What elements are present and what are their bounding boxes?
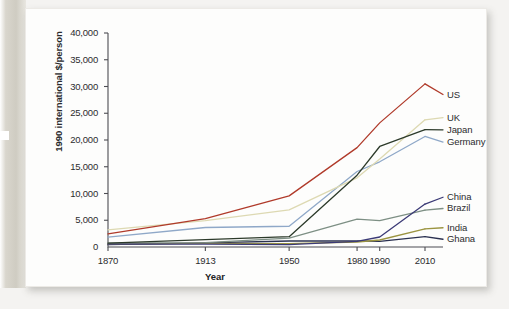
series-layer	[108, 84, 443, 245]
page-corner-notch	[0, 131, 9, 140]
series-label-india: India	[447, 222, 467, 233]
y-tick-label: 5,000	[50, 214, 98, 225]
y-tick-label: 25,000	[50, 107, 98, 118]
series-leader-germany	[425, 136, 443, 142]
series-label-ghana: Ghana	[447, 233, 475, 244]
y-tick-label: 20,000	[50, 134, 98, 145]
series-leader-ghana	[425, 237, 443, 240]
series-leader-brazil	[425, 208, 443, 210]
series-leader-us	[425, 84, 443, 95]
x-tick-label: 1950	[267, 255, 311, 266]
series-line-china	[108, 204, 425, 245]
series-line-uk	[108, 120, 425, 230]
series-label-brazil: Brazil	[447, 202, 470, 213]
x-tick-label: 1990	[358, 255, 402, 266]
series-line-germany	[108, 136, 425, 237]
series-leader-india	[425, 228, 443, 229]
plot-area: 1990 international $/person Year 05,0001…	[25, 8, 487, 287]
series-label-germany: Germany	[447, 136, 485, 147]
y-tick-label: 40,000	[50, 27, 98, 38]
series-label-us: US	[447, 89, 460, 100]
series-label-japan: Japan	[447, 124, 472, 135]
y-tick-label: 0	[50, 241, 98, 252]
series-leader-uk	[425, 118, 443, 120]
x-tick-label: 1870	[86, 255, 130, 266]
y-tick-label: 15,000	[50, 161, 98, 172]
x-tick-label: 2010	[403, 255, 447, 266]
figure-card: 1990 international $/person Year 05,0001…	[25, 8, 487, 287]
figure-root: 1990 international $/person Year 05,0001…	[0, 0, 509, 309]
x-tick-label: 1913	[183, 255, 227, 266]
series-label-china: China	[447, 191, 471, 202]
y-tick-label: 30,000	[50, 81, 98, 92]
series-line-us	[108, 84, 425, 234]
series-label-uk: UK	[447, 112, 460, 123]
page-binding-strip	[0, 0, 26, 288]
y-tick-label: 35,000	[50, 54, 98, 65]
series-leader-china	[425, 197, 443, 204]
y-tick-label: 10,000	[50, 188, 98, 199]
